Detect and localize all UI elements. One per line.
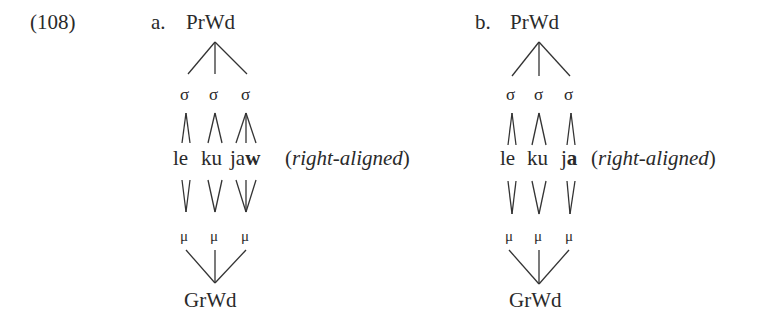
- panel-a-syllable-branches: [182, 113, 256, 143]
- panel-a-grwd-branches: [186, 250, 246, 283]
- association-lines: [0, 0, 759, 330]
- panel-b-grwd-branches: [509, 250, 569, 284]
- panel-b-syllable-branches: [508, 113, 575, 145]
- panel-a-mora-branches: [182, 180, 256, 212]
- panel-a-prwd-branches: [188, 42, 247, 74]
- panel-b-prwd-branches: [512, 42, 570, 76]
- panel-b-mora-branches: [508, 181, 575, 214]
